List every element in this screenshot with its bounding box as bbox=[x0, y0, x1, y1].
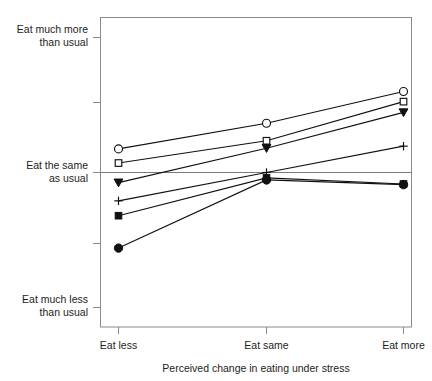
x-axis-ticks bbox=[119, 327, 404, 334]
data-point-filled-circle-eat-more bbox=[399, 180, 407, 188]
series-6-filled-circle bbox=[114, 176, 407, 253]
y-label-bottom-line1: Eat much less bbox=[22, 293, 88, 305]
series-3-filled-triangle bbox=[114, 109, 408, 187]
data-point-open-circle-eat-more bbox=[400, 88, 408, 96]
data-point-open-square-eat-more bbox=[400, 98, 407, 105]
data-point-filled-circle-eat-same bbox=[262, 176, 270, 184]
y-label-top-line2: than usual bbox=[40, 36, 88, 48]
x-label-eat-more: Eat more bbox=[382, 339, 425, 351]
data-point-plus-eat-more bbox=[399, 142, 407, 150]
x-label-eat-same: Eat same bbox=[244, 339, 289, 351]
chart-canvas: Eat much more than usual Eat the same as… bbox=[0, 0, 432, 381]
data-point-filled-circle-eat-less bbox=[114, 244, 122, 252]
data-series-layer bbox=[114, 88, 408, 253]
y-label-mid-line1: Eat the same bbox=[26, 159, 88, 171]
x-label-eat-less: Eat less bbox=[100, 339, 137, 351]
data-point-open-circle-eat-same bbox=[263, 119, 271, 127]
y-axis-ticks bbox=[93, 38, 100, 308]
y-axis-label-eat-much-more: Eat much more than usual bbox=[17, 23, 88, 48]
y-axis-label-eat-much-less: Eat much less than usual bbox=[22, 293, 88, 318]
series-2-open-square bbox=[115, 98, 407, 166]
y-label-bottom-line2: than usual bbox=[40, 306, 88, 318]
y-axis-label-eat-the-same: Eat the same as usual bbox=[26, 159, 88, 184]
series-line-4 bbox=[119, 146, 404, 201]
series-line-1 bbox=[119, 92, 404, 149]
y-label-mid-line2: as usual bbox=[49, 172, 88, 184]
series-line-6 bbox=[119, 180, 404, 248]
y-label-top-line1: Eat much more bbox=[17, 23, 88, 35]
series-5-filled-square bbox=[115, 175, 407, 219]
data-point-filled-square-eat-less bbox=[115, 212, 122, 219]
data-point-filled-triangle-eat-less bbox=[114, 179, 123, 187]
series-1-open-circle bbox=[115, 88, 408, 153]
data-point-open-square-eat-less bbox=[115, 160, 122, 167]
data-point-open-circle-eat-less bbox=[115, 145, 123, 153]
chart-figure: Eat much more than usual Eat the same as… bbox=[0, 0, 432, 381]
x-axis-title: Perceived change in eating under stress bbox=[162, 362, 349, 374]
data-point-open-square-eat-same bbox=[263, 137, 270, 144]
data-point-plus-eat-less bbox=[114, 197, 122, 205]
